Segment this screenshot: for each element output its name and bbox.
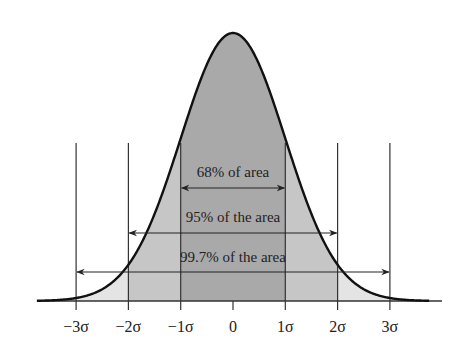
area-annotation: 95% of the area: [186, 209, 281, 225]
axis-tick-label: −1σ: [168, 318, 194, 335]
area-annotation: 68% of area: [197, 164, 270, 180]
axis-tick-label: 1σ: [277, 318, 294, 335]
axis-tick-label: −3σ: [63, 318, 89, 335]
normal-distribution-diagram: 68% of area95% of the area99.7% of the a…: [0, 0, 474, 345]
axis-tick-label: 2σ: [329, 318, 346, 335]
axis-tick-label: 0: [229, 318, 237, 335]
axis-tick-label: 3σ: [382, 318, 399, 335]
axis-tick-label: −2σ: [116, 318, 142, 335]
area-annotation: 99.7% of the area: [180, 249, 286, 265]
axis-labels: −3σ−2σ−1σ01σ2σ3σ: [63, 318, 398, 335]
